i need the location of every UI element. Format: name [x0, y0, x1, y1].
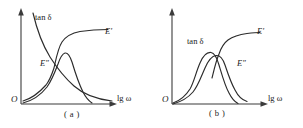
curve-label-e-double-prime-a: E″	[40, 59, 49, 68]
curve-e-double-prime-a	[23, 53, 92, 103]
curve-e-prime-a	[23, 30, 108, 102]
curve-label-e-double-prime-b: E″	[237, 59, 246, 68]
curve-label-tan-delta-b: tan δ	[187, 37, 204, 46]
panel-caption-b: ( b )	[209, 108, 225, 118]
x-axis-arrow-b	[261, 101, 269, 107]
y-axis-arrow-b	[169, 8, 175, 16]
x-axis-label-a: lg ω	[117, 94, 131, 103]
curve-e-prime-b	[212, 33, 260, 79]
chart-svg-b	[151, 0, 303, 128]
curve-tan-delta-a	[33, 13, 112, 101]
curve-label-tan-delta-a: tan δ	[35, 13, 52, 22]
origin-label-a: O	[11, 95, 18, 104]
curve-label-e-prime-b: E′	[257, 27, 264, 36]
chart-panel-a: tan δ E′ E″ lg ω O ( a )	[0, 0, 152, 128]
panel-caption-a: ( a )	[64, 109, 80, 119]
curve-tan-delta-b	[173, 52, 238, 103]
curve-label-e-prime-a: E′	[105, 27, 112, 36]
y-axis-arrow-a	[18, 8, 24, 16]
figure-root: tan δ E′ E″ lg ω O ( a ) tan δ E′ E″ lg …	[0, 0, 303, 128]
x-axis-label-b: lg ω	[268, 94, 282, 103]
chart-panel-b: tan δ E′ E″ lg ω O ( b )	[151, 0, 303, 128]
origin-label-b: O	[162, 95, 169, 104]
x-axis-arrow-a	[110, 101, 118, 107]
